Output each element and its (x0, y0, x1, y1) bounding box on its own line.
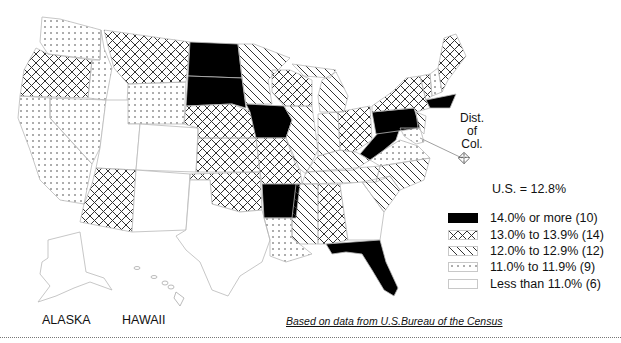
swatch-solid-icon (448, 213, 478, 223)
legend-row-solid: 14.0% or more (10) (448, 210, 604, 226)
state-alaska (38, 232, 112, 302)
swatch-diagonal-icon (448, 246, 478, 256)
state-indiana (318, 112, 340, 156)
state-washington (40, 17, 101, 60)
legend-row-dots: 11.0% to 11.9% (9) (448, 259, 604, 275)
us-average-label: U.S. = 12.8% (492, 182, 566, 196)
state-maine (438, 34, 466, 92)
legend-label: 12.0% to 12.9% (12) (490, 244, 604, 258)
state-hawaii (134, 267, 184, 307)
state-florida (326, 240, 398, 296)
state-wyoming (126, 82, 186, 124)
swatch-dots-icon (448, 262, 478, 272)
source-note: Based on data from U.S.Bureau of the Cen… (286, 315, 503, 327)
bottom-divider (0, 337, 621, 338)
state-new-mexico (132, 170, 190, 232)
state-ohio (338, 106, 372, 152)
state-north-dakota (188, 42, 242, 78)
state-kansas (196, 138, 260, 172)
legend-label: 13.0% to 13.9% (14) (490, 228, 604, 242)
legend-row-blank: Less than 11.0% (6) (448, 276, 604, 292)
dc-marker (458, 152, 469, 163)
legend-label: 11.0% to 11.9% (9) (490, 260, 595, 274)
legend: 14.0% or more (10) 13.0% to 13.9% (14) 1… (448, 210, 604, 292)
dc-label: Dist. of Col. (460, 112, 484, 151)
legend-row-crosshatch: 13.0% to 13.9% (14) (448, 226, 604, 242)
state-mississippi (292, 184, 318, 244)
swatch-crosshatch-icon (448, 230, 478, 240)
alaska-label: ALASKA (42, 313, 91, 327)
legend-row-diagonal: 12.0% to 12.9% (12) (448, 243, 604, 259)
dc-label-line: Col. (460, 138, 484, 151)
swatch-blank-icon (448, 279, 478, 289)
hawaii-label: HAWAII (122, 313, 166, 327)
state-colorado (136, 124, 198, 172)
state-montana (104, 30, 190, 84)
legend-label: 14.0% or more (10) (490, 211, 598, 225)
legend-label: Less than 11.0% (6) (490, 277, 601, 291)
state-south-dakota (186, 76, 246, 108)
